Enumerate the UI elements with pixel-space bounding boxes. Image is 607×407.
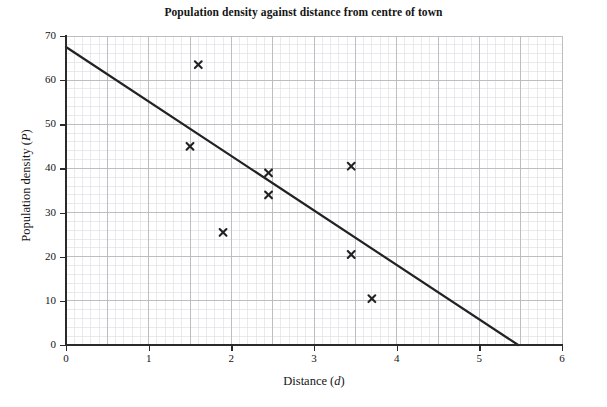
x-axis-tick-label: 5: [459, 352, 499, 364]
x-axis-title-text: Distance (: [283, 374, 334, 388]
x-axis-tick-label: 2: [211, 352, 251, 364]
x-axis-tick-mark: [562, 345, 563, 351]
data-point-marker: [265, 169, 272, 176]
x-axis-tick-mark: [66, 345, 67, 351]
y-axis-tick-mark: [60, 301, 66, 302]
y-axis-tick-mark: [60, 345, 66, 346]
data-point-marker: [348, 251, 355, 258]
chart-title: Population density against distance from…: [0, 6, 607, 18]
data-point-marker: [265, 192, 272, 199]
data-point-marker: [368, 295, 375, 302]
x-axis-tick-label: 0: [46, 352, 86, 364]
y-axis-tick-mark: [60, 80, 66, 81]
data-point-marker: [220, 229, 227, 236]
x-axis-tick-mark: [479, 345, 480, 351]
x-axis-tick-mark: [231, 345, 232, 351]
y-axis-tick-mark: [60, 213, 66, 214]
data-point-marker: [187, 143, 194, 150]
x-axis-tick-mark: [149, 345, 150, 351]
x-axis-tick-label: 3: [294, 352, 334, 364]
x-axis-tick-mark: [314, 345, 315, 351]
y-axis-tick-label: 0: [14, 338, 56, 350]
data-point-marker: [348, 163, 355, 170]
trend-line: [66, 47, 518, 345]
y-axis-tick-label: 10: [14, 294, 56, 306]
chart-figure: Population density against distance from…: [0, 0, 607, 407]
y-axis-title: Population density (P): [19, 76, 34, 296]
plot-area: [66, 36, 562, 345]
x-axis-tick-label: 6: [542, 352, 582, 364]
y-axis-title-tail: ): [19, 129, 33, 133]
y-axis-tick-label: 70: [14, 29, 56, 41]
data-point-marker: [195, 61, 202, 68]
y-axis-tick-mark: [60, 168, 66, 169]
y-axis-line: [65, 35, 67, 346]
x-axis-tick-label: 4: [377, 352, 417, 364]
x-axis-tick-label: 1: [129, 352, 169, 364]
x-axis-tick-mark: [397, 345, 398, 351]
y-axis-tick-mark: [60, 36, 66, 37]
y-axis-tick-mark: [60, 257, 66, 258]
y-axis-title-variable: P: [19, 133, 33, 141]
data-layer: [66, 36, 562, 345]
x-axis-title: Distance (d): [66, 374, 562, 389]
y-axis-title-text: Population density (: [19, 141, 33, 242]
y-axis-tick-mark: [60, 124, 66, 125]
x-axis-title-tail: ): [341, 374, 345, 388]
